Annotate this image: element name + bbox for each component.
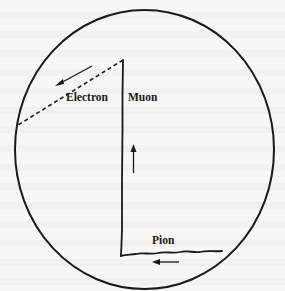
pion-direction-arrow-icon [152,259,179,265]
chamber-circle [15,10,274,289]
muon-direction-arrow-icon [131,144,137,173]
pion-track [121,251,222,256]
muon-label: Muon [128,92,157,104]
decay-diagram [0,0,285,291]
pion-label: Pion [152,235,174,247]
muon-track [121,60,123,256]
electron-label: Electron [66,92,108,104]
